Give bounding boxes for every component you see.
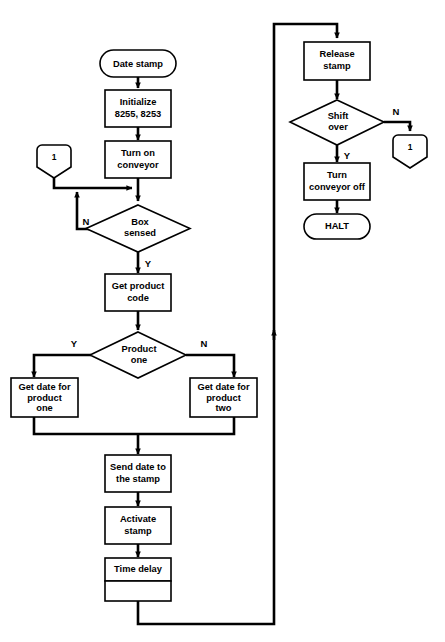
send-date-line1: Send date to [110,462,166,472]
product-one-yes-label: Y [71,338,78,349]
connector-right-label: 1 [408,142,413,152]
product-one-line1: Product [121,344,156,354]
initialize-label-line2: 8255, 8253 [115,109,162,119]
box-sensed-no-label: N [83,216,90,227]
shift-over-line1: Shift [328,111,349,121]
blank-box [105,581,171,601]
get-product-code-line2: code [127,293,149,303]
node-get-date-product-one[interactable]: Get date for product one [11,378,78,417]
flowchart-canvas: Date stamp Initialize 8255, 8253 Turn on… [0,0,445,642]
product-one-line2: one [131,355,148,365]
node-turn-conveyor-off[interactable]: Turn conveyor off [304,163,370,200]
node-get-date-product-two[interactable]: Get date for product two [190,378,257,417]
node-initialize[interactable]: Initialize 8255, 8253 [105,90,171,127]
connector-left-label: 1 [52,152,57,162]
turn-on-conveyor-line2: conveyor [117,160,159,170]
box-sensed-line1: Box [131,217,149,227]
get-date-product-two-line2: product [206,393,241,403]
edge-productdates-merge [34,417,234,434]
initialize-label-line1: Initialize [120,97,157,107]
shift-over-yes-label: Y [344,150,351,161]
shift-over-no-label: N [393,106,400,117]
node-box-sensed[interactable]: Box sensed [86,205,190,252]
node-activate-stamp[interactable]: Activate stamp [105,507,171,544]
get-date-product-one-line3: one [36,403,53,413]
node-turn-on-conveyor[interactable]: Turn on conveyor [105,141,171,178]
node-time-delay[interactable]: Time delay [105,558,171,581]
node-date-stamp[interactable]: Date stamp [100,50,176,77]
time-delay-line1: Time delay [114,564,163,574]
halt-label: HALT [325,221,349,231]
node-release-stamp[interactable]: Release stamp [304,42,370,80]
edge-productone-yes [34,355,91,377]
turn-conveyor-off-line1: Turn [327,170,347,180]
edge-shiftover-no [384,122,410,131]
date-stamp-label: Date stamp [113,59,163,69]
activate-stamp-line1: Activate [120,514,156,524]
flowchart-svg: Date stamp Initialize 8255, 8253 Turn on… [0,0,445,642]
get-date-product-one-line1: Get date for [18,382,71,392]
node-connector-one-left[interactable]: 1 [37,145,71,178]
edge-connector1-to-merge [54,178,132,188]
node-send-date[interactable]: Send date to the stamp [105,455,171,492]
node-blank-box[interactable] [105,581,171,601]
node-product-one[interactable]: Product one [90,332,186,378]
turn-on-conveyor-line1: Turn on [121,148,155,158]
turn-conveyor-off-line2: conveyor off [309,182,366,192]
product-one-no-label: N [201,338,208,349]
box-sensed-line2: sensed [124,228,156,238]
get-date-product-two-line3: two [215,403,231,413]
box-sensed-yes-label: Y [145,258,152,269]
node-halt[interactable]: HALT [304,214,370,239]
release-stamp-line2: stamp [323,61,351,71]
node-get-product-code[interactable]: Get product code [105,274,171,311]
shift-over-line2: over [328,122,348,132]
get-date-product-two-line1: Get date for [197,382,250,392]
send-date-line2: the stamp [116,474,160,484]
get-date-product-one-line2: product [27,393,62,403]
release-stamp-line1: Release [319,49,354,59]
node-connector-one-right[interactable]: 1 [393,135,427,168]
edge-productone-no [186,355,234,377]
activate-stamp-line2: stamp [124,526,152,536]
get-product-code-line1: Get product [112,281,165,291]
node-shift-over[interactable]: Shift over [290,100,384,145]
